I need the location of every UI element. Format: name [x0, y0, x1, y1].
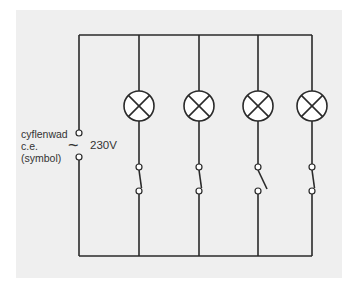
switch-4-terminal-bottom — [309, 188, 315, 194]
switch-3-terminal-top — [255, 164, 261, 170]
switch-2-terminal-top — [196, 164, 202, 170]
switch-4-blade-closed — [312, 170, 315, 188]
switch-1-terminal-top — [136, 164, 142, 170]
switch-2-blade-closed — [199, 170, 202, 188]
switch-1-terminal-bottom — [136, 188, 142, 194]
switch-2-terminal-bottom — [196, 188, 202, 194]
switch-3-terminal-bottom — [255, 188, 261, 194]
switch-4-terminal-top — [309, 164, 315, 170]
supply-label-line-1: cyflenwad — [21, 128, 68, 140]
branches-group — [124, 35, 327, 256]
supply-label-line-3: (symbol) — [21, 152, 61, 164]
switch-3-blade-open — [258, 170, 267, 189]
voltage-label: 230V — [90, 139, 117, 151]
supply-label-line-2: c.e. — [21, 140, 38, 152]
circuit-diagram: ~ 230V cyflenwad c.e. (symbol) — [0, 0, 353, 289]
ac-symbol-icon: ~ — [68, 135, 79, 155]
switch-1-blade-closed — [139, 170, 142, 188]
